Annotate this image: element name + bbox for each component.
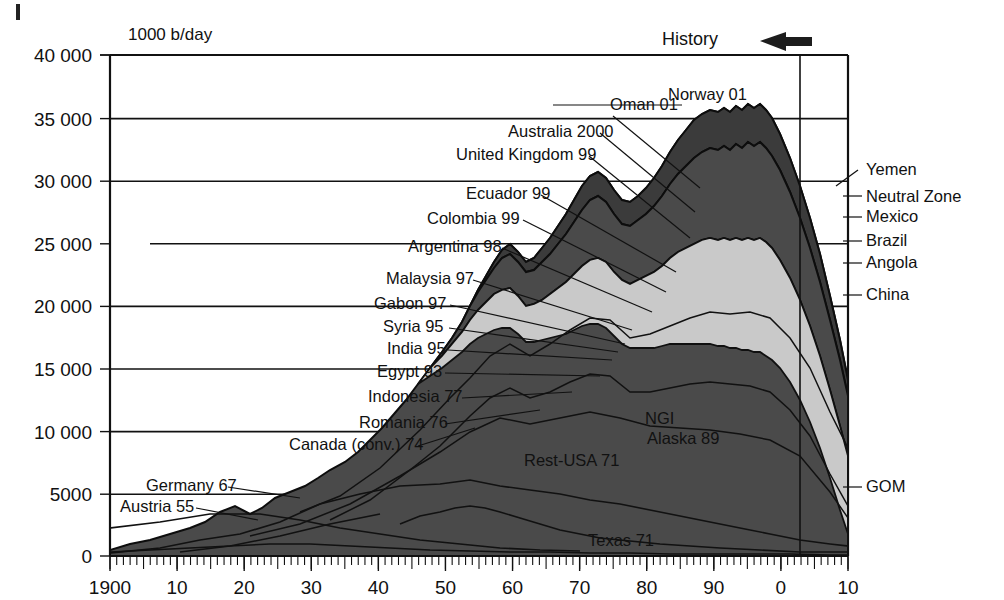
y-tick-label: 40 000	[34, 45, 92, 66]
series-callout-label: Malaysia 97	[386, 269, 474, 287]
series-right-label: Neutral Zone	[866, 187, 961, 205]
x-tick-label: 80	[636, 577, 657, 598]
x-tick-label: 90	[703, 577, 724, 598]
top-callout-labels: Norway 01	[668, 85, 747, 103]
series-right-label: Brazil	[866, 231, 907, 249]
oil-production-area-chart: 40 000 35 000 30 000 25 000 20 000 15 00…	[0, 0, 1004, 600]
series-inline-label: Alaska 89	[647, 429, 719, 447]
series-callout-label: Indonesia 77	[368, 387, 463, 405]
series-inline-label: NGI	[645, 409, 674, 427]
axis-unit-label: 1000 b/day	[128, 25, 213, 44]
series-callout-label: Australia 2000	[508, 122, 614, 140]
x-tick-label: 10	[837, 577, 858, 598]
series-callout-label: India 95	[387, 339, 446, 357]
series-right-label: China	[866, 285, 910, 303]
history-label: History	[662, 29, 718, 49]
series-callout-label: Ecuador 99	[466, 184, 550, 202]
y-axis-ticks	[100, 55, 110, 556]
history-annotation: History	[662, 29, 812, 51]
series-callout-label: Colombia 99	[427, 209, 520, 227]
y-axis-tick-labels: 40 000 35 000 30 000 25 000 20 000 15 00…	[34, 45, 92, 567]
series-right-label: Yemen	[866, 160, 917, 178]
series-callout-label: Canada (conv.) 74	[289, 435, 424, 453]
y-tick-label: 0	[81, 546, 92, 567]
x-tick-label: 10	[167, 577, 188, 598]
series-callout-label: Romania 76	[359, 413, 448, 431]
y-tick-label: 25 000	[34, 234, 92, 255]
series-callout-label: Egypt 93	[377, 362, 442, 380]
series-callout-label: Syria 95	[383, 317, 444, 335]
right-side-labels: YemenNeutral ZoneMexicoBrazilAngolaChina…	[866, 160, 961, 495]
x-axis-tick-labels: 1900102030405060708090010	[89, 577, 859, 598]
series-right-label: GOM	[866, 477, 905, 495]
y-tick-label: 15 000	[34, 359, 92, 380]
x-tick-label: 40	[368, 577, 389, 598]
x-tick-label: 60	[502, 577, 523, 598]
y-tick-label: 30 000	[34, 171, 92, 192]
x-tick-label: 70	[569, 577, 590, 598]
series-callout-label: Germany 67	[146, 476, 237, 494]
x-tick-label: 20	[234, 577, 255, 598]
series-inline-label: Texas 71	[588, 531, 654, 549]
x-tick-label: 0	[776, 577, 787, 598]
series-right-label: Mexico	[866, 207, 918, 225]
y-tick-label: 10 000	[34, 422, 92, 443]
y-tick-label: 5000	[50, 484, 92, 505]
series-inline-label: Rest-USA 71	[524, 451, 619, 469]
x-tick-label: 1900	[89, 577, 131, 598]
series-callout-label: Argentina 98	[408, 237, 502, 255]
x-tick-label: 30	[301, 577, 322, 598]
figure-container: 40 000 35 000 30 000 25 000 20 000 15 00…	[0, 0, 1004, 600]
series-callout-label: Austria 55	[120, 497, 194, 515]
series-callout-label: Norway 01	[668, 85, 747, 103]
x-tick-label: 50	[435, 577, 456, 598]
series-right-label: Angola	[866, 253, 918, 271]
left-arrow-icon	[760, 32, 812, 51]
series-callout-label: Gabon 97	[374, 294, 446, 312]
page-corner-mark	[16, 4, 20, 20]
x-axis-minor-ticks	[110, 556, 848, 569]
y-tick-label: 20 000	[34, 296, 92, 317]
y-tick-label: 35 000	[34, 109, 92, 130]
series-callout-label: United Kingdom 99	[456, 145, 596, 163]
